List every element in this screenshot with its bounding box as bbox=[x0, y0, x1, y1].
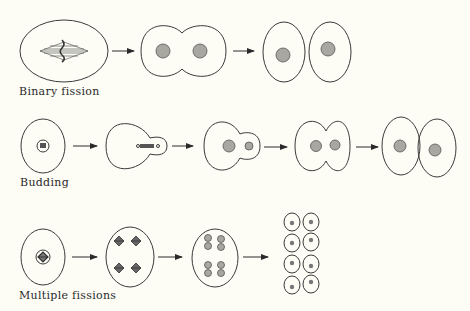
reproduction-diagram bbox=[0, 0, 470, 311]
label-budding: Budding bbox=[20, 176, 69, 189]
dividing-cell bbox=[295, 121, 350, 170]
budding-row bbox=[21, 117, 456, 177]
nucleus bbox=[193, 44, 207, 58]
nucleus bbox=[321, 42, 335, 56]
binary-fission-row bbox=[20, 20, 351, 82]
multinucleate-cell bbox=[192, 229, 238, 287]
label-multiple-fissions: Multiple fissions bbox=[19, 289, 116, 302]
constricting-cell bbox=[141, 26, 226, 77]
label-binary-fission: Binary fission bbox=[19, 85, 100, 98]
dividing-cell-spindle bbox=[20, 20, 108, 82]
daughter-cells-grid bbox=[284, 213, 319, 294]
dividing-cell bbox=[106, 227, 154, 287]
nucleus bbox=[276, 48, 290, 62]
multiple-fission-row bbox=[21, 213, 319, 294]
nucleus bbox=[156, 44, 170, 58]
